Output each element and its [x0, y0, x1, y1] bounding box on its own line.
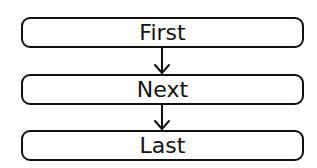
- node-next-label: Next: [137, 79, 188, 101]
- node-last: Last: [21, 130, 304, 161]
- node-next: Next: [21, 74, 304, 105]
- node-first: First: [21, 17, 304, 48]
- node-last-label: Last: [140, 135, 186, 157]
- arrow-first-to-next: [155, 48, 169, 73]
- node-first-label: First: [139, 22, 185, 44]
- arrow-next-to-last: [155, 105, 169, 129]
